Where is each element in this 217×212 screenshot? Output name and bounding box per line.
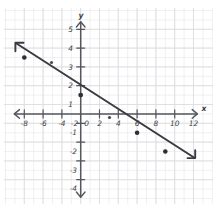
- x-tick-label: 12: [189, 119, 199, 128]
- y-tick-label: 4: [68, 44, 73, 53]
- grid-major-lines: [4, 8, 213, 204]
- x-tick-label: 8: [154, 119, 159, 128]
- data-point: [135, 130, 140, 135]
- x-tick-label: 2: [97, 119, 102, 128]
- plotted-line: [15, 43, 195, 158]
- y-tick-label: -1: [70, 128, 77, 137]
- y-tick-label: 5: [68, 25, 73, 34]
- data-point: [22, 55, 27, 60]
- stray-dot: [108, 116, 111, 119]
- x-tick-label: -2: [71, 119, 79, 128]
- y-tick-label: -4: [70, 184, 78, 193]
- x-tick-label: 10: [170, 119, 180, 128]
- data-point: [163, 149, 168, 154]
- origin-label: 0: [84, 119, 89, 128]
- y-axis-label: y: [79, 11, 85, 20]
- data-point: [78, 93, 83, 98]
- x-tick-label: -4: [58, 119, 66, 128]
- y-tick-label: -3: [70, 166, 78, 175]
- x-axis-label: x: [201, 104, 208, 113]
- x-axis: [14, 110, 197, 119]
- y-tick-label: -2: [70, 147, 78, 156]
- grid-minor-lines: [4, 8, 213, 204]
- y-tick-label: 1: [68, 100, 73, 109]
- x-tick-label: -6: [39, 119, 47, 128]
- y-tick-label: 2: [68, 81, 73, 90]
- stray-dot: [50, 61, 53, 64]
- x-tick-label: -8: [21, 119, 29, 128]
- graph-canvas: -8 -6 -4 -2 0 2 4 6 8 10 12 5 4 3 2 1 -1…: [0, 0, 217, 212]
- x-tick-label: 4: [116, 119, 121, 128]
- y-axis-tick-labels: 5 4 3 2 1 -1 -2 -3 -4: [68, 25, 77, 193]
- coordinate-plane-figure: -8 -6 -4 -2 0 2 4 6 8 10 12 5 4 3 2 1 -1…: [0, 0, 217, 212]
- y-tick-label: 3: [68, 63, 73, 72]
